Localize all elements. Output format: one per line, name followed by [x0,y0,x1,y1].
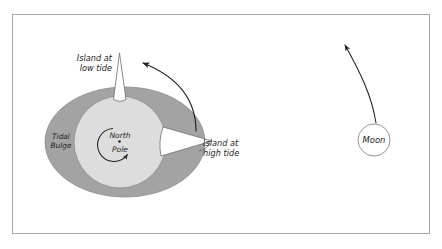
low-tide-island-label-line2: low tide [80,63,112,73]
north-pole-dot [118,140,121,143]
diagram-canvas: Island at low tide Island at high tide T… [0,0,442,249]
tidal-bulge-diagram: Island at low tide Island at high tide T… [0,0,442,249]
low-tide-island-label-line1: Island at [77,53,113,63]
tidal-bulge-label-line1: Tidal [52,132,71,141]
moon-label: Moon [363,135,386,145]
tidal-bulge-label-line2: Bulge [50,141,71,150]
north-pole-label-line1: North [109,131,130,140]
high-tide-island-label-line1: Island at [203,138,239,148]
high-tide-island-label-line2: high tide [203,148,239,158]
north-pole-label-line2: Pole [112,145,128,154]
